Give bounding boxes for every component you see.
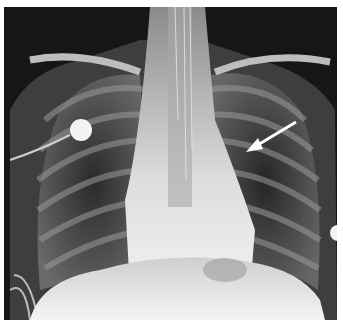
- xray-render: [4, 7, 337, 320]
- ecg-electrode-icon: [70, 119, 92, 141]
- xray-image: [4, 7, 337, 320]
- gastric-bubble: [203, 258, 247, 282]
- spine: [168, 7, 192, 207]
